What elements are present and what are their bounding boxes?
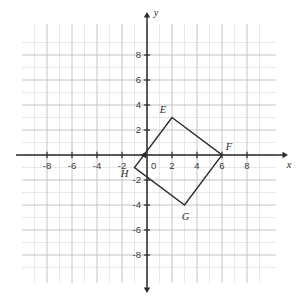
x-tick-label: 2 [169,160,174,171]
y-tick-label: 4 [136,99,141,110]
y-tick-label: 8 [136,49,141,60]
x-tick-label: -6 [68,160,76,171]
grid-minor-lines [22,24,276,283]
y-tick-label: 2 [136,124,141,135]
x-tick-label: -8 [43,160,51,171]
vertex-label-f: F [225,141,233,152]
y-tick-label: -8 [133,249,141,260]
y-tick-label: -2 [133,174,141,185]
vertex-label-g: G [182,211,190,222]
coordinate-plane-svg: -8-6-4-224688642-2-4-6-80 xy EFGH [0,0,304,299]
y-tick-label: -6 [133,224,141,235]
x-tick-label: 4 [194,160,199,171]
vertex-label-e: E [159,104,167,115]
x-tick-label: -4 [93,160,101,171]
y-tick-label: -4 [133,199,141,210]
vertex-label-h: H [120,168,130,179]
y-axis-name: y [153,7,159,18]
grid-major-lines [22,24,276,283]
coordinate-plane-figure: -8-6-4-224688642-2-4-6-80 xy EFGH [0,0,304,299]
x-tick-label: 6 [219,160,224,171]
x-tick-label: 8 [244,160,249,171]
x-axis-name: x [286,159,292,170]
origin-label: 0 [151,160,156,171]
y-tick-label: 6 [136,74,141,85]
